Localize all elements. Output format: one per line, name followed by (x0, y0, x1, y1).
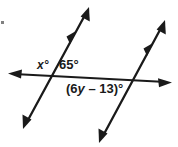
angle-label-65: 65° (59, 58, 79, 71)
geometry-diagram: x° 65° (6y – 13)° (0, 0, 178, 147)
angle-label-6y-prefix: (6 (66, 81, 78, 96)
angle-label-6y-variable: y (78, 81, 85, 96)
diagram-canvas (0, 0, 178, 147)
angle-label-x: x° (37, 59, 48, 71)
angle-label-6y: (6y – 13)° (66, 82, 123, 95)
transversal-left-arrowhead (8, 70, 22, 79)
parallel-line-left (23, 7, 90, 129)
transversal-right-arrowhead (158, 78, 172, 87)
scan-artifact-speck (1, 21, 4, 24)
angle-label-6y-suffix: – 13)° (85, 81, 123, 96)
